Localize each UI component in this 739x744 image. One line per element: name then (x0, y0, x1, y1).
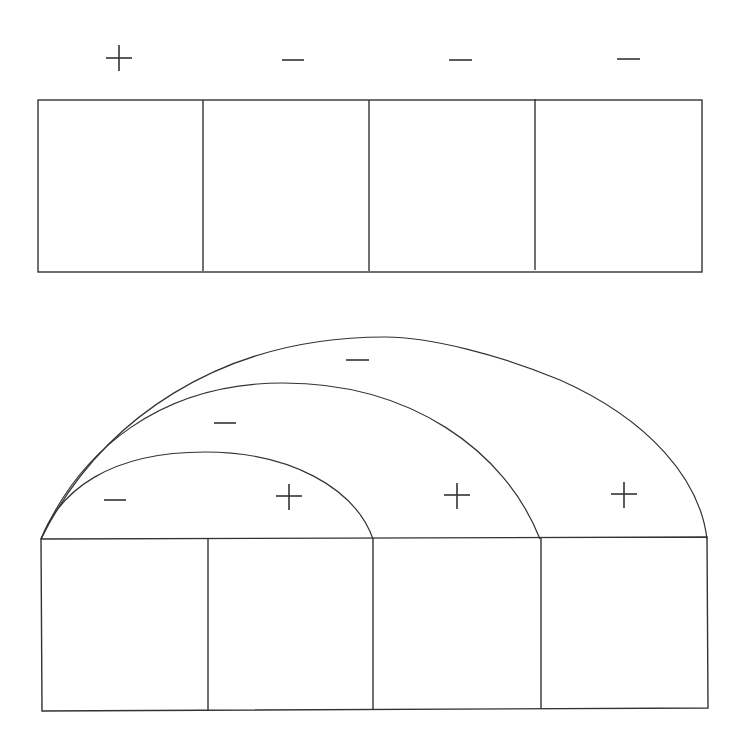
bottom-panel (41, 337, 708, 711)
plus-sign (106, 45, 132, 71)
middle-arc (41, 383, 540, 539)
plus-sign (276, 484, 302, 510)
bottom-row-box (41, 537, 708, 711)
diagram (0, 0, 739, 744)
plus-sign (444, 483, 470, 509)
inner-arc (41, 452, 373, 539)
top-row-box (38, 100, 702, 272)
top-panel (38, 45, 702, 272)
plus-sign (611, 482, 637, 508)
outer-arc (41, 337, 707, 539)
